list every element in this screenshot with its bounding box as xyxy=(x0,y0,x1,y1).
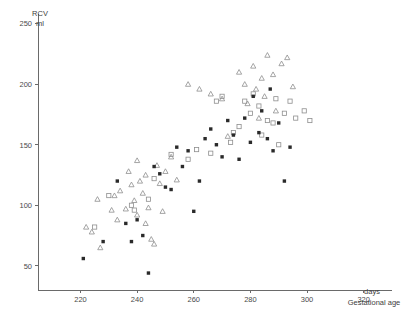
data-point-open-square xyxy=(274,97,278,101)
y-tick-label: 50 xyxy=(24,262,32,271)
x-tick-label: 320 xyxy=(357,295,370,304)
data-point-filled-square xyxy=(260,109,263,112)
data-point-open-triangle xyxy=(285,55,290,60)
data-point-open-triangle xyxy=(185,82,190,87)
y-axis-title-line1: RCV xyxy=(32,9,48,18)
data-point-filled-square xyxy=(135,218,138,221)
data-point-filled-square xyxy=(152,165,155,168)
data-point-open-triangle xyxy=(290,84,295,89)
x-tick-label: 280 xyxy=(244,295,257,304)
data-point-filled-square xyxy=(257,131,260,134)
data-point-filled-square xyxy=(266,137,269,140)
data-point-open-triangle xyxy=(143,172,148,177)
data-point-open-square xyxy=(132,208,136,212)
data-point-open-square xyxy=(146,197,150,201)
data-point-filled-square xyxy=(116,179,119,182)
data-point-filled-square xyxy=(288,145,291,148)
data-point-open-triangle xyxy=(140,191,145,196)
data-point-open-triangle xyxy=(98,245,103,250)
data-point-filled-square xyxy=(249,141,252,144)
y-axis-ticks: 50100150200250 xyxy=(19,19,38,270)
data-point-open-triangle xyxy=(129,182,134,187)
data-point-open-triangle xyxy=(256,116,261,121)
data-point-filled-square xyxy=(158,172,161,175)
data-point-filled-square xyxy=(164,185,167,188)
data-point-filled-square xyxy=(141,234,144,237)
data-point-open-square xyxy=(282,111,286,115)
data-point-open-triangle xyxy=(152,241,157,246)
data-point-open-triangle xyxy=(135,158,140,163)
data-point-filled-square xyxy=(130,240,133,243)
data-point-open-triangle xyxy=(197,86,202,91)
data-point-filled-square xyxy=(252,95,255,98)
data-point-open-triangle xyxy=(160,209,165,214)
data-point-open-square xyxy=(107,193,111,197)
x-tick-label: 300 xyxy=(301,295,314,304)
data-point-filled-square xyxy=(181,165,184,168)
data-point-filled-square xyxy=(169,188,172,191)
data-point-filled-square xyxy=(243,116,246,119)
data-point-filled-square xyxy=(277,121,280,124)
data-point-open-triangle xyxy=(242,82,247,87)
data-point-open-triangle xyxy=(273,108,278,113)
data-point-open-triangle xyxy=(208,91,213,96)
data-point-open-triangle xyxy=(157,181,162,186)
data-point-open-triangle xyxy=(251,63,256,68)
data-point-open-triangle xyxy=(262,94,267,99)
data-point-open-square xyxy=(288,99,292,103)
data-point-open-triangle xyxy=(163,169,168,174)
data-point-open-triangle xyxy=(253,86,258,91)
data-point-filled-square xyxy=(147,271,150,274)
data-point-open-triangle xyxy=(123,206,128,211)
data-point-open-square xyxy=(194,147,198,151)
data-point-open-triangle xyxy=(109,208,114,213)
data-point-open-triangle xyxy=(132,198,137,203)
x-tick-label: 220 xyxy=(74,295,87,304)
data-point-open-triangle xyxy=(118,188,123,193)
data-point-open-triangle xyxy=(137,178,142,183)
data-point-open-square xyxy=(214,99,218,103)
data-point-open-square xyxy=(271,121,275,125)
data-point-open-square xyxy=(294,116,298,120)
data-point-open-square xyxy=(237,124,241,128)
y-tick-label: 150 xyxy=(19,141,32,150)
data-point-open-square xyxy=(265,118,269,122)
data-point-open-square xyxy=(308,118,312,122)
data-point-open-triangle xyxy=(149,237,154,242)
data-point-open-square xyxy=(248,111,252,115)
data-point-open-triangle xyxy=(236,70,241,75)
data-point-open-triangle xyxy=(143,221,148,226)
data-point-open-triangle xyxy=(89,229,94,234)
data-point-open-triangle xyxy=(126,169,131,174)
data-point-open-triangle xyxy=(95,197,100,202)
chart-canvas: RCV ml days Gestational age 501001502002… xyxy=(0,0,415,320)
data-point-filled-square xyxy=(175,145,178,148)
data-point-filled-square xyxy=(283,179,286,182)
data-point-open-square xyxy=(129,203,133,207)
data-point-open-triangle xyxy=(115,217,120,222)
data-point-open-square xyxy=(228,140,232,144)
data-point-open-triangle xyxy=(174,177,179,182)
data-point-filled-square xyxy=(124,222,127,225)
x-axis-ticks: 220240260280300320 xyxy=(74,290,370,304)
data-point-open-square xyxy=(186,157,190,161)
data-point-filled-square xyxy=(186,149,189,152)
data-point-open-triangle xyxy=(265,53,270,58)
data-point-filled-square xyxy=(209,127,212,130)
data-point-filled-square xyxy=(215,143,218,146)
x-axis-title-line2: Gestational age xyxy=(348,298,401,307)
data-point-filled-square xyxy=(192,210,195,213)
data-point-open-triangle xyxy=(135,212,140,217)
data-point-open-square xyxy=(257,104,261,108)
data-point-open-square xyxy=(93,225,97,229)
x-tick-label: 240 xyxy=(131,295,144,304)
data-point-open-triangle xyxy=(279,61,284,66)
data-point-open-square xyxy=(152,177,156,181)
data-point-filled-square xyxy=(198,179,201,182)
data-point-open-triangle xyxy=(84,224,89,229)
data-point-open-triangle xyxy=(225,134,230,139)
data-point-filled-square xyxy=(269,87,272,90)
data-point-filled-square xyxy=(271,149,274,152)
data-point-open-square xyxy=(209,151,213,155)
data-point-filled-square xyxy=(82,257,85,260)
